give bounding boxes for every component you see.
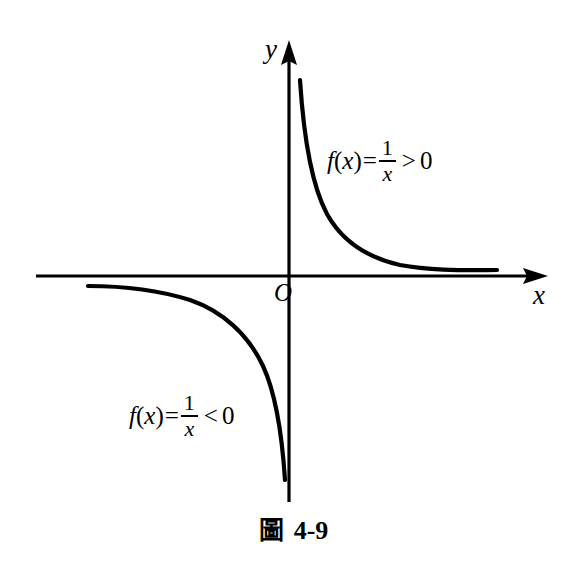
formula-negative-fraction: 1 x — [181, 392, 198, 440]
y-axis-label: y — [265, 36, 277, 63]
formula-negative-value: 0 — [222, 403, 235, 428]
formula-negative-equals: = — [165, 403, 179, 428]
formula-positive-fname: f — [327, 148, 334, 173]
x-axis-label: x — [533, 282, 545, 309]
formula-positive: f ( x ) = 1 x > 0 — [327, 137, 432, 185]
formula-negative-fname: f — [129, 403, 136, 428]
formula-positive-equals: = — [363, 148, 377, 173]
formula-negative-numerator: 1 — [181, 392, 198, 415]
hyperbola-figure — [0, 0, 587, 582]
formula-negative-denominator: x — [181, 417, 197, 440]
caption-prefix: 圖 — [259, 517, 285, 544]
formula-negative-relation: < — [204, 403, 218, 428]
formula-positive-value: 0 — [420, 148, 433, 173]
formula-negative-arg: x — [144, 403, 155, 428]
formula-negative-close-paren: ) — [155, 403, 163, 428]
formula-positive-fraction: 1 x — [379, 137, 396, 185]
caption-number: 4-9 — [294, 516, 329, 545]
formula-positive-relation: > — [402, 148, 416, 173]
figure-caption: 圖4-9 — [0, 518, 587, 544]
formula-negative: f ( x ) = 1 x < 0 — [129, 392, 234, 440]
formula-positive-numerator: 1 — [379, 137, 396, 160]
hyperbola-branch-negative — [88, 286, 285, 480]
figure-page: y x O f ( x ) = 1 x > 0 f ( x ) = 1 x < … — [0, 0, 587, 582]
formula-positive-close-paren: ) — [353, 148, 361, 173]
origin-label: O — [274, 280, 292, 305]
formula-positive-denominator: x — [379, 162, 395, 185]
formula-positive-arg: x — [342, 148, 353, 173]
